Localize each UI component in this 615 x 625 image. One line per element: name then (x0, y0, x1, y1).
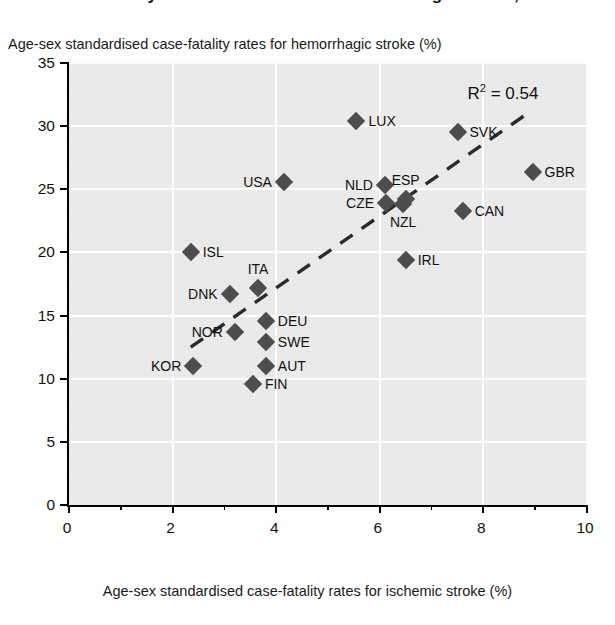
y-tick-mark (60, 188, 69, 190)
y-tick-mark (60, 125, 69, 127)
scatter-point-label: SWE (278, 334, 310, 350)
y-axis-title: Age-sex standardised case-fatality rates… (8, 36, 442, 52)
y-tick-label: 25 (11, 180, 55, 198)
scatter-point-label: IRL (418, 252, 440, 268)
y-tick-mark (60, 315, 69, 317)
scatter-point-label: LUX (368, 113, 395, 129)
r-squared-annotation: R2 = 0.54 (468, 82, 539, 104)
x-tick-label: 6 (358, 519, 398, 537)
x-axis-title: Age-sex standardised case-fatality rates… (0, 583, 615, 599)
trend-line (69, 63, 587, 505)
y-tick-label: 30 (11, 117, 55, 135)
x-tick-label: 2 (151, 519, 191, 537)
chart-title-clipped: Case-fatality rates for ischemic and hem… (0, 0, 615, 16)
scatter-point-label: CAN (475, 203, 505, 219)
y-tick-label: 10 (11, 370, 55, 388)
r-squared-symbol: R (468, 84, 480, 103)
scatter-point-label: ISL (203, 244, 224, 260)
y-tick-label: 0 (11, 496, 55, 514)
scatter-point-label: FIN (265, 376, 288, 392)
y-tick-mark (60, 378, 69, 380)
plot-area: LUXSVKGBRUSANLDESPCZENZLCANISLIRLITADNKD… (67, 63, 587, 507)
x-tick-mark (172, 505, 174, 513)
x-tick-label: 0 (47, 519, 87, 537)
scatter-point-label: DEU (278, 313, 308, 329)
scatter-point-label: ESP (392, 172, 420, 188)
x-tick-mark-minor (431, 505, 433, 510)
scatter-point-label: AUT (278, 358, 306, 374)
y-tick-label: 20 (11, 243, 55, 261)
x-tick-mark-minor (534, 505, 536, 510)
y-tick-mark (60, 441, 69, 443)
r-squared-value: = 0.54 (486, 84, 538, 103)
scatter-point-label: KOR (151, 358, 181, 374)
x-tick-label: 10 (565, 519, 605, 537)
x-tick-mark (482, 505, 484, 513)
x-tick-mark (379, 505, 381, 513)
scatter-point-label: SVK (470, 124, 498, 140)
scatter-point-label: NZL (390, 214, 416, 230)
chart-title: Case-fatality rates for ischemic and hem… (0, 0, 615, 5)
y-tick-label: 15 (11, 307, 55, 325)
scatter-point-label: ITA (248, 261, 269, 277)
scatter-point-label: GBR (545, 164, 575, 180)
x-tick-mark (68, 505, 70, 513)
scatter-point-label: CZE (346, 195, 374, 211)
chart-page: Case-fatality rates for ischemic and hem… (0, 0, 615, 625)
y-tick-label: 5 (11, 433, 55, 451)
scatter-point-label: NLD (345, 177, 373, 193)
trend-line-segment (191, 114, 528, 348)
x-tick-mark-minor (224, 505, 226, 510)
x-tick-mark-minor (120, 505, 122, 510)
y-tick-mark (60, 62, 69, 64)
scatter-point-label: DNK (188, 286, 218, 302)
x-tick-mark (586, 505, 588, 513)
scatter-point-label: NOR (192, 324, 223, 340)
x-tick-mark-minor (327, 505, 329, 510)
y-tick-label: 35 (11, 54, 55, 72)
x-tick-mark (275, 505, 277, 513)
y-tick-mark (60, 251, 69, 253)
x-tick-label: 4 (254, 519, 294, 537)
y-tick-mark (60, 504, 69, 506)
scatter-point-label: USA (243, 174, 272, 190)
x-tick-label: 8 (461, 519, 501, 537)
